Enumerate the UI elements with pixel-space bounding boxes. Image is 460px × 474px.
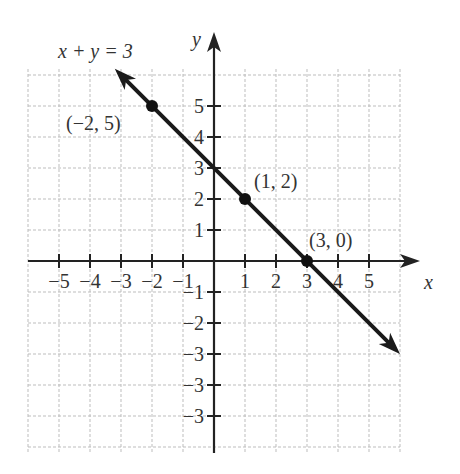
- y-tick-label: 2: [194, 188, 204, 210]
- y-tick-label: −3: [183, 405, 204, 427]
- equation-line-path: [122, 76, 393, 347]
- equation-line: [115, 69, 400, 354]
- x-tick-label: −5: [48, 270, 69, 292]
- data-point: [146, 100, 158, 112]
- y-tick-label: −3: [183, 343, 204, 365]
- y-tick-label: −1: [183, 281, 204, 303]
- x-axis-label: x: [423, 271, 433, 293]
- data-point: [239, 193, 251, 205]
- y-axis-label: y: [190, 28, 201, 51]
- point-label-neg2-5: (−2, 5): [66, 112, 121, 135]
- y-tick-label: 3: [194, 157, 204, 179]
- x-tick-label: 5: [364, 270, 374, 292]
- x-tick-label: 3: [302, 270, 312, 292]
- x-tick-label: 1: [240, 270, 250, 292]
- y-tick-label: 4: [194, 126, 204, 148]
- y-tick-label: −2: [183, 312, 204, 334]
- equation-label: x + y = 3: [57, 40, 133, 63]
- x-tick-label: 2: [271, 270, 281, 292]
- y-tick-label: 5: [194, 95, 204, 117]
- y-tick-label: −3: [183, 374, 204, 396]
- x-tick-label: −3: [110, 270, 131, 292]
- axes: [28, 32, 420, 453]
- point-label-3-0: (3, 0): [309, 229, 352, 252]
- x-tick-label: −2: [141, 270, 162, 292]
- x-tick-label: −4: [79, 270, 100, 292]
- point-label-1-2: (1, 2): [254, 170, 297, 193]
- y-tick-label: 1: [194, 219, 204, 241]
- coordinate-graph: −5−4−3−2−11234554321−1−2−3−3−3 x + y = 3…: [0, 0, 460, 474]
- data-point: [301, 255, 313, 267]
